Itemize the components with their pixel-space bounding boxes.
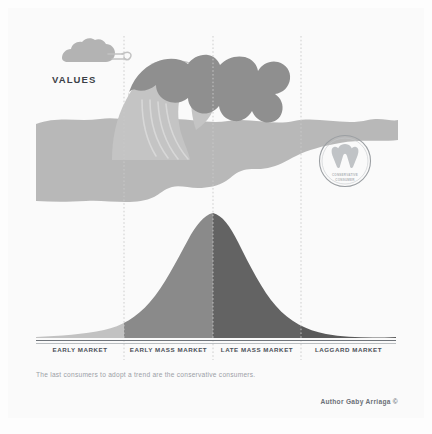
axis-line: [36, 341, 396, 344]
segment-label-early-market: EARLY MARKET: [36, 346, 124, 353]
cloud-wind-icon: [62, 38, 131, 62]
infographic-root: CONSERVATIVE CONSUMER: [0, 0, 432, 434]
illustration-stage: CONSERVATIVE CONSUMER: [0, 0, 432, 434]
adoption-curve: [36, 200, 396, 340]
curve-segment-1: [36, 200, 124, 340]
conservative-consumer-badge[interactable]: CONSERVATIVE CONSUMER: [320, 136, 371, 187]
curve-segment-3: [213, 200, 301, 340]
author-credit: Author Gaby Arriaga ©: [320, 398, 398, 405]
segment-label-late-mass-market: LATE MASS MARKET: [213, 346, 301, 353]
badge-line-1: CONSERVATIVE: [332, 173, 358, 177]
segment-label-laggard-market: LAGGARD MARKET: [301, 346, 396, 353]
segment-label-row: EARLY MARKET EARLY MASS MARKET LATE MASS…: [36, 346, 396, 360]
water-body: [36, 118, 398, 202]
shell-icon: [332, 144, 359, 168]
curve-segment-2: [124, 200, 213, 340]
caption-text: The last consumers to adopt a trend are …: [36, 371, 255, 378]
curve-segment-4: [301, 200, 396, 340]
badge-line-2: CONSUMER: [335, 178, 355, 182]
values-label: VALUES: [52, 74, 96, 85]
segment-label-early-mass-market: EARLY MASS MARKET: [124, 346, 213, 353]
